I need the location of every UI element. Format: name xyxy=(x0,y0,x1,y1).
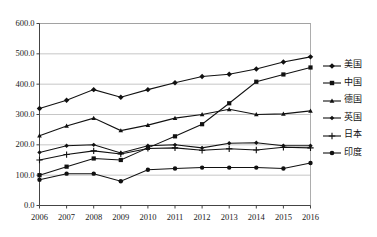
x-tick-label: 2013 xyxy=(214,212,244,222)
data-point xyxy=(281,59,286,64)
data-point xyxy=(308,65,312,69)
data-point xyxy=(146,168,150,172)
legend-label: 德国 xyxy=(344,92,362,105)
x-tick-label: 2016 xyxy=(296,212,326,222)
x-tick-label: 2015 xyxy=(268,212,298,222)
data-point xyxy=(119,179,123,183)
legend-item-4[interactable]: 日本 xyxy=(322,125,362,143)
data-point xyxy=(37,173,41,177)
data-point xyxy=(118,94,123,99)
chart-legend: 美国中国德国英国日本印度 xyxy=(322,55,362,160)
data-point xyxy=(92,156,96,160)
data-point xyxy=(199,74,204,79)
series-0 xyxy=(37,54,313,111)
y-tick-label: 400.0 xyxy=(0,79,35,89)
data-point xyxy=(254,80,258,84)
data-point xyxy=(281,72,285,76)
data-point xyxy=(91,143,95,147)
data-point xyxy=(63,151,69,157)
x-tick-label: 2011 xyxy=(160,212,190,222)
y-tick-label: 100.0 xyxy=(0,170,35,180)
line-chart: 0.0100.0200.0300.0400.0500.0600.0 200620… xyxy=(0,0,377,237)
data-point xyxy=(65,165,69,169)
legend-item-2[interactable]: 德国 xyxy=(322,90,362,108)
y-tick-label: 600.0 xyxy=(0,18,35,28)
data-point xyxy=(200,122,204,126)
data-point xyxy=(173,134,177,138)
y-tick-label: 0.0 xyxy=(0,200,35,210)
data-point xyxy=(37,178,41,182)
data-point xyxy=(64,171,68,175)
legend-marker-icon xyxy=(322,93,342,105)
series-line xyxy=(40,163,311,181)
data-point xyxy=(172,145,178,151)
legend-label: 英国 xyxy=(344,110,362,123)
data-point xyxy=(227,101,231,105)
legend-label: 印度 xyxy=(344,145,362,158)
data-point xyxy=(173,166,177,170)
y-tick-label: 300.0 xyxy=(0,109,35,119)
data-point xyxy=(119,158,123,162)
legend-label: 日本 xyxy=(344,127,362,140)
data-point xyxy=(226,146,232,152)
series-2 xyxy=(37,107,313,138)
legend-marker-icon xyxy=(322,58,342,70)
data-point xyxy=(227,107,232,111)
data-point xyxy=(253,147,259,153)
x-tick-label: 2007 xyxy=(52,212,82,222)
legend-marker-icon xyxy=(322,110,342,122)
data-point xyxy=(64,98,69,103)
legend-marker-icon xyxy=(322,145,342,157)
x-tick-label: 2014 xyxy=(241,212,271,222)
y-tick-label: 200.0 xyxy=(0,139,35,149)
data-point xyxy=(226,71,231,76)
data-point xyxy=(36,157,42,163)
data-point xyxy=(91,87,96,92)
series-5 xyxy=(37,161,312,184)
legend-marker-icon xyxy=(322,128,342,140)
data-point xyxy=(227,165,231,169)
series-4 xyxy=(36,144,313,163)
data-point xyxy=(91,116,96,120)
legend-item-1[interactable]: 中国 xyxy=(322,73,362,91)
data-point xyxy=(64,144,68,148)
data-point xyxy=(37,106,42,111)
data-point xyxy=(254,165,258,169)
data-point xyxy=(254,66,259,71)
legend-marker-icon xyxy=(322,75,342,87)
legend-item-3[interactable]: 英国 xyxy=(322,108,362,126)
x-tick-label: 2006 xyxy=(25,212,55,222)
data-point xyxy=(91,148,97,154)
data-point xyxy=(254,141,258,145)
data-point xyxy=(91,171,95,175)
x-tick-label: 2010 xyxy=(133,212,163,222)
y-tick-label: 500.0 xyxy=(0,48,35,58)
data-point xyxy=(308,161,312,165)
data-point xyxy=(37,150,41,154)
data-point xyxy=(200,165,204,169)
data-point xyxy=(281,166,285,170)
data-point xyxy=(118,151,124,157)
data-point xyxy=(308,54,313,59)
legend-item-0[interactable]: 美国 xyxy=(322,55,362,73)
legend-item-5[interactable]: 印度 xyxy=(322,143,362,161)
x-tick-label: 2012 xyxy=(187,212,217,222)
x-tick-label: 2008 xyxy=(79,212,109,222)
legend-label: 中国 xyxy=(344,75,362,88)
series-line xyxy=(40,109,311,135)
x-tick-label: 2009 xyxy=(106,212,136,222)
legend-label: 美国 xyxy=(344,57,362,70)
chart-plot-area xyxy=(0,0,377,237)
data-point xyxy=(145,87,150,92)
